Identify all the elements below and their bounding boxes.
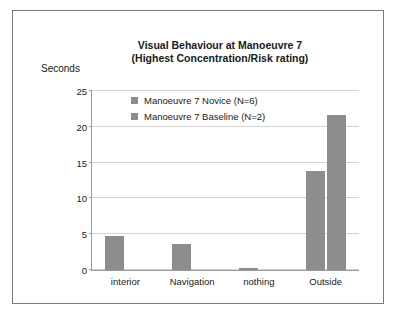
- y-axis-tickmark: [89, 90, 92, 91]
- y-axis-tick-label: 5: [82, 229, 87, 240]
- y-axis-tickmark: [89, 162, 92, 163]
- gridline: [92, 162, 359, 163]
- plot-wrapper: 0510152025interiorNavigationnothingOutsi…: [91, 91, 359, 271]
- x-axis-tick-label: Outside: [309, 276, 342, 287]
- gridline: [92, 90, 359, 91]
- chart-title-line-2: (Highest Concentration/Risk rating): [75, 52, 365, 65]
- chart-title-line-1: Visual Behaviour at Manoeuvre 7: [75, 39, 365, 52]
- gridline: [92, 126, 359, 127]
- y-axis-tick-label: 10: [76, 193, 87, 204]
- bar: [172, 244, 191, 270]
- y-axis-tick-label: 25: [76, 86, 87, 97]
- plot-area: 0510152025interiorNavigationnothingOutsi…: [91, 91, 359, 271]
- chart-title: Visual Behaviour at Manoeuvre 7 (Highest…: [75, 39, 365, 65]
- bar: [239, 268, 258, 270]
- bar: [327, 115, 346, 270]
- y-axis-tick-label: 15: [76, 157, 87, 168]
- y-axis-tick-label: 0: [82, 265, 87, 276]
- x-axis-tick-label: nothing: [243, 276, 274, 287]
- bar: [105, 236, 124, 270]
- chart-container: Visual Behaviour at Manoeuvre 7 (Highest…: [12, 10, 384, 304]
- y-axis-tickmark: [89, 233, 92, 234]
- bar: [306, 171, 325, 270]
- x-axis-tick-label: Navigation: [170, 276, 215, 287]
- y-axis-tickmark: [89, 126, 92, 127]
- x-axis-tick-label: interior: [111, 276, 140, 287]
- y-axis-title: Seconds: [41, 63, 80, 74]
- y-axis-tickmark: [89, 269, 92, 270]
- y-axis-tickmark: [89, 197, 92, 198]
- y-axis-tick-label: 20: [76, 121, 87, 132]
